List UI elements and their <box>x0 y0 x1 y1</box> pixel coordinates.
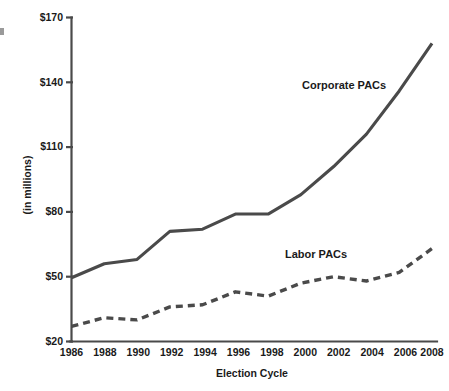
y-tick-label-140: $140 <box>40 76 64 88</box>
x-axis-tick-labels: 1986 1988 1990 1992 1994 1996 1998 2000 … <box>60 346 444 358</box>
x-tick-label-1998: 1998 <box>260 346 284 358</box>
x-tick-label-1988: 1988 <box>93 346 117 358</box>
series-annotation-corporate-pacs: Corporate PACs <box>302 79 386 91</box>
y-tick-label-110: $110 <box>40 140 63 152</box>
y-tick-label-80: $80 <box>45 205 63 217</box>
x-tick-label-1996: 1996 <box>227 346 251 358</box>
x-tick-label-2004: 2004 <box>360 346 384 358</box>
chart-figure: $170 $140 $110 $80 $50 $20 (in millions)… <box>0 0 449 391</box>
y-tick-label-50: $50 <box>45 270 63 282</box>
y-axis-title: (in millions) <box>21 156 33 215</box>
x-tick-label-1992: 1992 <box>160 346 184 358</box>
y-axis-tick-labels: $170 $140 $110 $80 $50 $20 <box>40 11 64 347</box>
x-tick-label-1990: 1990 <box>127 346 151 358</box>
x-axis-title: Election Cycle <box>216 367 288 379</box>
line-chart: $170 $140 $110 $80 $50 $20 (in millions)… <box>0 0 449 391</box>
page-edge-artifact <box>0 28 4 35</box>
x-tick-label-2002: 2002 <box>327 346 351 358</box>
x-tick-label-2008: 2008 <box>420 346 444 358</box>
x-tick-label-2006: 2006 <box>394 346 418 358</box>
x-tick-label-2000: 2000 <box>294 346 318 358</box>
series-annotation-labor-pacs: Labor PACs <box>285 248 347 260</box>
y-tick-label-170: $170 <box>40 11 64 23</box>
x-tick-label-1986: 1986 <box>60 346 84 358</box>
x-tick-label-1994: 1994 <box>193 346 217 358</box>
